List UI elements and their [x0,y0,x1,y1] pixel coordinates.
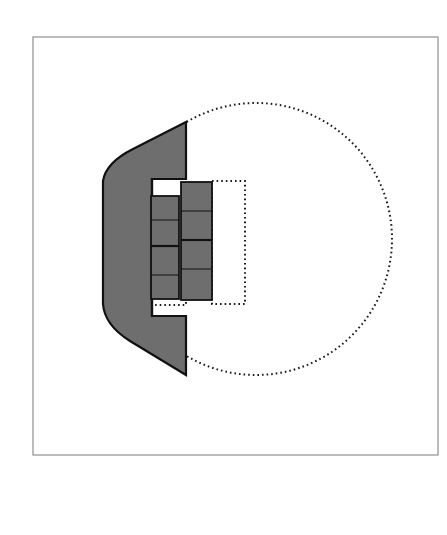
figure-root [0,0,447,535]
right-segment-column [181,182,212,300]
figure-canvas [0,0,447,535]
left-column-body [151,196,179,299]
left-segment-column [151,196,179,299]
